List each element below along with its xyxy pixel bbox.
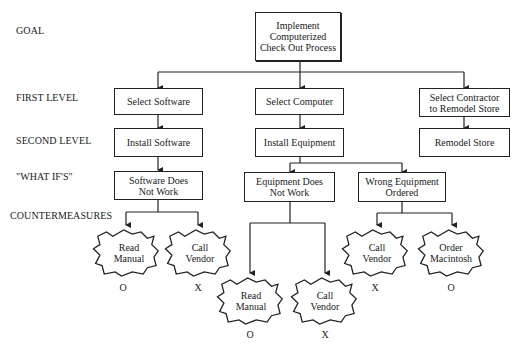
- cloud-line2: Vendor: [170, 253, 230, 264]
- mark-call-vendor-2: X: [315, 329, 335, 340]
- whatif-equipment-does-not-work: Equipment Does Not Work: [244, 172, 335, 202]
- countermeasure-read-manual-1: Read Manual: [99, 242, 159, 264]
- cloud-line2: Manual: [221, 301, 281, 312]
- first-level-select-contractor: Select Contractor to Remodel Store: [419, 88, 510, 117]
- goal-line-3: Check Out Process: [260, 42, 336, 53]
- cloud-line2: Vendor: [295, 301, 355, 312]
- first-level-select-software: Select Software: [114, 88, 203, 115]
- first-level-label: Select Computer: [266, 96, 333, 107]
- whatif-line1: Wrong Equipment: [365, 176, 439, 187]
- first-level-label-line1: Select Contractor: [430, 92, 500, 103]
- whatif-line2: Not Work: [139, 186, 178, 197]
- level-label-whatifs: "WHAT IF'S": [16, 171, 73, 182]
- first-level-select-computer: Select Computer: [255, 88, 344, 115]
- goal-line-2: Computerized: [270, 31, 327, 42]
- cloud-line1: Read: [99, 242, 159, 253]
- cloud-line1: Call: [170, 242, 230, 253]
- level-label-goal: GOAL: [16, 25, 44, 36]
- cloud-line1: Call: [347, 242, 407, 253]
- first-level-label: Select Software: [127, 96, 190, 107]
- goal-line-1: Implement: [276, 20, 319, 31]
- second-level-install-software: Install Software: [114, 128, 203, 157]
- countermeasure-order-macintosh: Order Macintosh: [421, 242, 481, 264]
- countermeasure-read-manual-2: Read Manual: [221, 290, 281, 312]
- countermeasure-call-vendor-1: Call Vendor: [170, 242, 230, 264]
- whatif-line2: Ordered: [386, 187, 419, 198]
- countermeasure-call-vendor-2: Call Vendor: [295, 290, 355, 312]
- mark-read-manual-2: O: [240, 329, 260, 340]
- whatif-line1: Software Does: [129, 175, 188, 186]
- cloud-line1: Call: [295, 290, 355, 301]
- cloud-line2: Macintosh: [421, 253, 481, 264]
- cloud-line1: Read: [221, 290, 281, 301]
- mark-call-vendor-1: X: [188, 282, 208, 293]
- second-level-label: Install Equipment: [264, 137, 335, 148]
- cloud-line1: Order: [421, 242, 481, 253]
- mark-order-macintosh: O: [441, 282, 461, 293]
- second-level-label: Install Software: [127, 137, 191, 148]
- whatif-software-does-not-work: Software Does Not Work: [114, 171, 203, 200]
- cloud-line2: Manual: [99, 253, 159, 264]
- mark-read-manual-1: O: [113, 282, 133, 293]
- first-level-label-line2: to Remodel Store: [430, 103, 500, 114]
- second-level-remodel-store: Remodel Store: [419, 128, 510, 157]
- countermeasure-call-vendor-3: Call Vendor: [347, 242, 407, 264]
- cloud-line2: Vendor: [347, 253, 407, 264]
- level-label-second: SECOND LEVEL: [16, 135, 91, 146]
- mark-call-vendor-3: X: [365, 282, 385, 293]
- second-level-install-equipment: Install Equipment: [255, 128, 344, 157]
- second-level-label: Remodel Store: [435, 137, 495, 148]
- whatif-wrong-equipment-ordered: Wrong Equipment Ordered: [358, 172, 446, 202]
- goal-box: Implement Computerized Check Out Process: [255, 12, 341, 61]
- whatif-line2: Not Work: [270, 187, 309, 198]
- whatif-line1: Equipment Does: [256, 176, 323, 187]
- level-label-first: FIRST LEVEL: [16, 92, 78, 103]
- level-label-countermeasures: COUNTERMEASURES: [10, 210, 112, 221]
